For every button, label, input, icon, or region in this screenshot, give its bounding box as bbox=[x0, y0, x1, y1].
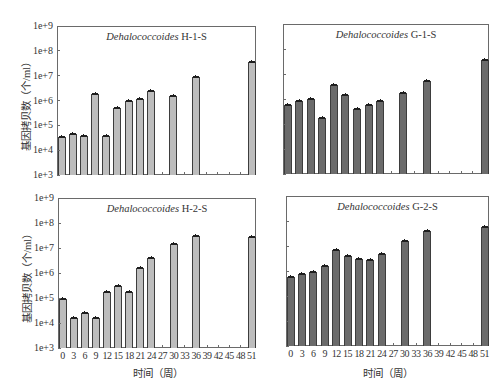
error-bar bbox=[324, 264, 325, 267]
y-axis-label-top: 基因拷贝数（个/ml） bbox=[18, 57, 33, 151]
error-bar bbox=[95, 316, 96, 319]
error-bar bbox=[72, 132, 73, 135]
bar-week-15 bbox=[113, 108, 121, 175]
error-bar bbox=[426, 79, 427, 82]
x-axis-label-right: 时间（周） bbox=[363, 365, 413, 380]
bar-week-9 bbox=[91, 94, 99, 175]
bar-week-15 bbox=[114, 286, 122, 348]
y-tick-label: 1e+8 bbox=[17, 45, 53, 56]
x-tick bbox=[184, 345, 185, 348]
x-tick bbox=[414, 171, 415, 174]
chart-panel-h-2-s: Dehalococcoides H-2-S 036912151821242730… bbox=[58, 198, 256, 348]
error-bar bbox=[370, 258, 371, 261]
title-sample: G-1-S bbox=[411, 29, 437, 40]
y-tick bbox=[58, 223, 61, 224]
error-bar bbox=[333, 83, 334, 86]
error-bar bbox=[139, 97, 140, 100]
y-tick-label: 1e+3 bbox=[18, 342, 54, 353]
bar-week-9 bbox=[92, 318, 100, 348]
error-bar bbox=[117, 106, 118, 109]
title-sample: H-1-S bbox=[181, 31, 207, 42]
error-bar bbox=[313, 270, 314, 273]
bar-week-30 bbox=[399, 93, 407, 174]
bar-week-0 bbox=[287, 277, 295, 346]
bar-week-0 bbox=[284, 105, 292, 174]
chart-panel-g-2-s: Dehalococcoides G-2-S 036912151821242730… bbox=[286, 196, 489, 346]
error-bar bbox=[106, 290, 107, 293]
error-bar bbox=[427, 229, 428, 232]
x-tick bbox=[450, 343, 451, 346]
y-tick bbox=[283, 124, 286, 125]
error-bar bbox=[151, 256, 152, 259]
bar-week-18 bbox=[125, 101, 133, 176]
bar-week-36 bbox=[423, 231, 431, 346]
y-tick bbox=[283, 99, 286, 100]
bar-week-12 bbox=[102, 136, 110, 175]
y-tick bbox=[57, 26, 60, 27]
bar-week-36 bbox=[423, 81, 431, 174]
x-tick bbox=[240, 172, 241, 175]
error-bar bbox=[83, 134, 84, 137]
error-bar bbox=[128, 99, 129, 102]
y-tick bbox=[57, 50, 60, 51]
error-bar bbox=[251, 235, 252, 238]
error-bar bbox=[484, 58, 485, 61]
y-tick bbox=[283, 174, 286, 175]
error-bar bbox=[251, 60, 252, 63]
x-axis-label-left: 时间（周） bbox=[133, 365, 183, 380]
error-bar bbox=[404, 239, 405, 242]
bar-week-18 bbox=[125, 292, 133, 348]
x-tick bbox=[393, 343, 394, 346]
error-bar bbox=[173, 242, 174, 245]
bar-week-30 bbox=[401, 241, 409, 346]
x-tick bbox=[473, 343, 474, 346]
bar-week-3 bbox=[70, 318, 78, 348]
y-tick-label: 1e+9 bbox=[17, 20, 53, 31]
bar-week-21 bbox=[136, 99, 144, 175]
x-tick bbox=[207, 345, 208, 348]
x-tick-label: 51 bbox=[478, 348, 492, 359]
x-tick bbox=[240, 345, 241, 348]
x-tick bbox=[206, 172, 207, 175]
error-bar bbox=[195, 234, 196, 237]
x-tick bbox=[438, 171, 439, 174]
title-genus: Dehalococcoides bbox=[336, 29, 408, 40]
bar-week-24 bbox=[147, 91, 155, 175]
bar-week-36 bbox=[192, 77, 200, 175]
error-bar bbox=[357, 107, 358, 110]
bar-week-9 bbox=[321, 266, 329, 346]
bar-week-12 bbox=[332, 250, 340, 346]
error-bar bbox=[301, 272, 302, 275]
error-bar bbox=[484, 225, 485, 228]
y-tick bbox=[58, 273, 61, 274]
x-tick bbox=[229, 345, 230, 348]
error-bar bbox=[140, 266, 141, 269]
bar-week-15 bbox=[344, 256, 352, 346]
bar-week-51 bbox=[481, 60, 489, 174]
bar-week-30 bbox=[169, 96, 177, 175]
error-bar bbox=[62, 297, 63, 300]
error-bar bbox=[106, 134, 107, 137]
error-bar bbox=[150, 89, 151, 92]
x-tick bbox=[218, 345, 219, 348]
error-bar bbox=[61, 135, 62, 138]
bar-week-15 bbox=[341, 95, 349, 174]
x-tick bbox=[461, 343, 462, 346]
bar-week-18 bbox=[355, 259, 363, 346]
error-bar bbox=[290, 275, 291, 278]
bar-week-51 bbox=[248, 237, 256, 348]
bar-week-21 bbox=[136, 268, 144, 348]
title-genus: Dehalococcoides bbox=[107, 203, 179, 214]
y-tick bbox=[58, 298, 61, 299]
error-bar bbox=[299, 99, 300, 102]
chart-panel-h-1-s: Dehalococcoides H-1-S 1e+31e+41e+51e+61e… bbox=[57, 26, 256, 175]
error-bar bbox=[195, 75, 196, 78]
bar-week-21 bbox=[366, 260, 374, 346]
title-sample: G-2-S bbox=[412, 201, 438, 212]
bar-week-12 bbox=[330, 85, 338, 174]
error-bar bbox=[322, 116, 323, 119]
panel-title: Dehalococcoides H-1-S bbox=[57, 31, 256, 42]
y-tick-label: 1e+3 bbox=[17, 169, 53, 180]
title-genus: Dehalococcoides bbox=[337, 201, 409, 212]
y-tick bbox=[58, 323, 61, 324]
